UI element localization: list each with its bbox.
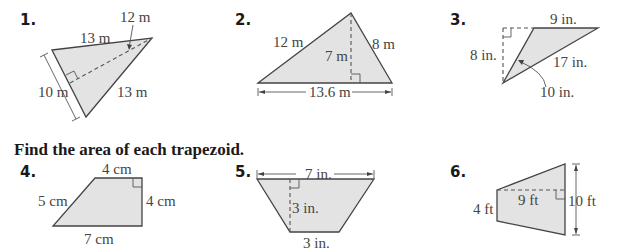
label-3-height: 8 in. [470,47,497,63]
figure-5-trapezoid: 7 in. 3 in. 3 in. [257,166,374,251]
label-4-bottom: 7 cm [84,231,114,247]
label-1-height: 12 m [120,9,151,25]
label-5-top: 7 in. [305,166,332,182]
label-6-right: 10 ft [568,193,597,209]
figures-canvas: 13 m 12 m 10 m 13 m 12 m 8 m 7 m 13.6 m … [0,0,619,252]
label-6-height: 9 ft [518,192,539,208]
label-1-top-side: 13 m [80,30,111,46]
label-5-bottom: 3 in. [303,235,330,251]
figure-3-triangle: 9 in. 8 in. 17 in. 10 in. [470,11,598,100]
figure-6-trapezoid: 9 ft 4 ft 10 ft [473,164,597,235]
figure-2-triangle: 12 m 8 m 7 m 13.6 m [258,13,395,100]
label-2-right-side: 8 m [372,36,395,52]
label-5-height: 3 in. [292,200,319,216]
label-1-right-side: 13 m [117,84,148,100]
label-6-left: 4 ft [473,201,494,217]
label-4-left-side: 5 cm [38,193,68,209]
label-3-top: 9 in. [550,11,577,27]
figure-1-triangle: 13 m 12 m 10 m 13 m [38,9,152,121]
figure-4-trapezoid: 4 cm 5 cm 4 cm 7 cm [38,161,176,247]
label-2-left-side: 12 m [273,34,304,50]
label-2-height: 7 m [325,48,348,64]
label-3-long-side: 17 in. [553,54,587,70]
label-4-right-side: 4 cm [146,193,176,209]
label-3-short-side: 10 in. [540,84,574,100]
label-1-left-side: 10 m [38,84,69,100]
label-4-top: 4 cm [102,161,132,177]
label-2-base: 13.6 m [309,84,351,100]
